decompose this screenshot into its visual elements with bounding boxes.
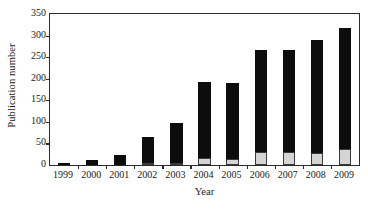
bar-group[interactable]	[226, 14, 238, 165]
bar-stack	[283, 50, 295, 165]
bar-stack	[226, 83, 238, 165]
bar-segment-lower	[311, 153, 323, 166]
x-tick-label: 2006	[250, 169, 270, 181]
y-tick-mark	[46, 100, 50, 101]
bar-segment-lower	[255, 152, 267, 165]
y-tick-label: 200	[20, 73, 46, 83]
bar-group[interactable]	[142, 14, 154, 165]
bar-stack	[170, 123, 182, 165]
x-tick-label: 2009	[334, 169, 354, 181]
bar-group[interactable]	[311, 14, 323, 165]
bar-stack	[114, 155, 126, 165]
x-tick-label: 2003	[165, 169, 185, 181]
bar-stack	[58, 163, 70, 165]
y-tick-mark	[46, 143, 50, 144]
bar-segment-upper	[283, 50, 295, 152]
bar-segment-lower	[283, 152, 295, 165]
y-tick-mark	[46, 36, 50, 37]
y-tick-label: 100	[20, 116, 46, 126]
bar-segment-upper	[226, 83, 238, 159]
publication-number-bar-chart: Publication number 050100150200250300350…	[0, 0, 368, 210]
bar-segment-lower	[198, 158, 210, 165]
x-tick-label: 2004	[194, 169, 214, 181]
bar-segment-upper	[86, 160, 98, 165]
y-tick-mark	[46, 122, 50, 123]
bar-segment-lower	[226, 159, 238, 165]
bar-stack	[142, 137, 154, 165]
y-tick-label: 50	[20, 137, 46, 147]
x-axis-tick-labels: 1999200020012002200320042005200620072008…	[49, 169, 360, 185]
bar-stack	[339, 28, 351, 165]
bar-group[interactable]	[86, 14, 98, 165]
y-tick-mark	[46, 79, 50, 80]
bar-segment-upper	[114, 155, 126, 165]
bar-segment-upper	[142, 137, 154, 163]
bar-segment-upper	[311, 40, 323, 153]
y-tick-label: 250	[20, 51, 46, 61]
bar-group[interactable]	[339, 14, 351, 165]
bar-group[interactable]	[283, 14, 295, 165]
bar-group[interactable]	[170, 14, 182, 165]
x-tick-label: 2007	[278, 169, 298, 181]
bar-segment-lower	[339, 149, 351, 165]
y-tick-mark	[46, 57, 50, 58]
x-tick-label: 2005	[222, 169, 242, 181]
bar-segment-upper	[170, 123, 182, 163]
x-tick-label: 2002	[137, 169, 157, 181]
bar-group[interactable]	[114, 14, 126, 165]
y-axis-title: Publication number	[2, 0, 20, 170]
y-axis-tick-labels: 050100150200250300350	[20, 0, 46, 175]
y-tick-label: 350	[20, 8, 46, 18]
bar-segment-lower	[170, 163, 182, 165]
x-tick-label: 2001	[109, 169, 129, 181]
y-tick-label: 150	[20, 94, 46, 104]
bar-segment-lower	[142, 163, 154, 165]
y-tick-label: 300	[20, 30, 46, 40]
plot-area	[49, 13, 360, 166]
x-tick-label: 2000	[81, 169, 101, 181]
x-tick-label: 1999	[53, 169, 73, 181]
bar-segment-upper	[58, 163, 70, 165]
bar-group[interactable]	[58, 14, 70, 165]
bar-stack	[311, 40, 323, 165]
bar-segment-upper	[339, 28, 351, 150]
bar-stack	[86, 160, 98, 165]
y-axis-title-label: Publication number	[6, 43, 17, 127]
bar-segment-upper	[198, 82, 210, 158]
bar-stack	[255, 50, 267, 165]
bar-stack	[198, 82, 210, 165]
bar-segment-upper	[255, 50, 267, 152]
x-tick-label: 2008	[306, 169, 326, 181]
bars-layer	[50, 14, 359, 165]
bar-group[interactable]	[255, 14, 267, 165]
bar-group[interactable]	[198, 14, 210, 165]
y-tick-label: 0	[20, 159, 46, 169]
x-axis-title: Year	[49, 186, 360, 197]
